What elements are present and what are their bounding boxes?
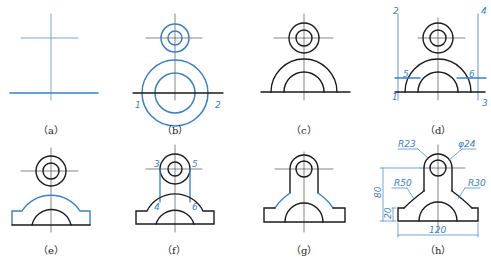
panel-b (133, 14, 223, 126)
label-d-5: 5 (403, 69, 409, 79)
label-d-6: 6 (469, 69, 475, 79)
label-d-2: 2 (393, 6, 399, 16)
label-d-1: 1 (392, 92, 398, 102)
caption-d: （d） (425, 125, 451, 136)
dim-r23: R23 (398, 139, 416, 149)
dim-120: 120 (429, 225, 446, 235)
panel-g (264, 152, 345, 232)
label-b-2: 2 (215, 100, 221, 110)
label-d-4: 4 (481, 6, 487, 16)
panel-e (12, 148, 90, 232)
drawing-steps-diagram: 1 2 2 4 1 3 5 6 3 5 4 6 R23 φ24 R50 R30 … (0, 0, 491, 262)
panel-d (395, 14, 486, 100)
label-b-1: 1 (135, 100, 141, 110)
panel-a (10, 14, 98, 100)
caption-c: （c） (291, 125, 317, 136)
label-d-3: 3 (482, 98, 488, 108)
caption-b: （b） (162, 125, 188, 136)
dim-r50: R50 (394, 178, 412, 188)
dim-20: 20 (383, 207, 393, 219)
label-f-6: 6 (192, 202, 198, 212)
dim-80: 80 (373, 186, 383, 198)
panel-f (136, 145, 214, 232)
label-f-5: 5 (192, 159, 198, 169)
caption-h: （h） (425, 245, 451, 256)
dim-hole-dia: φ24 (458, 139, 476, 149)
panel-h (380, 145, 480, 237)
caption-g: （g） (291, 245, 317, 256)
caption-f: （f） (162, 245, 186, 256)
label-f-3: 3 (154, 159, 160, 169)
dim-r30: R30 (468, 178, 486, 188)
panel-c (261, 14, 350, 100)
caption-e: （e） (38, 245, 64, 256)
caption-a: （a） (38, 125, 64, 136)
label-f-4: 4 (154, 202, 160, 212)
